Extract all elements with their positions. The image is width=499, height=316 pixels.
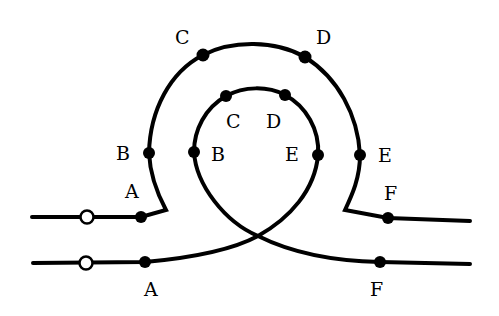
outer-label-c: C bbox=[175, 26, 190, 48]
outer-loop-track bbox=[32, 44, 470, 221]
outer-point-c-dot-icon bbox=[197, 49, 210, 62]
inner-label-b: B bbox=[211, 143, 225, 165]
outer-label-f: F bbox=[384, 182, 397, 204]
track-loop-diagram: A B C D E F A B C D E F bbox=[0, 0, 499, 316]
inner-label-a: A bbox=[143, 278, 158, 300]
outer-label-e: E bbox=[378, 144, 392, 166]
inner-point-e-dot-icon bbox=[312, 149, 324, 161]
outer-point-e-dot-icon bbox=[354, 149, 366, 161]
inner-label-d: D bbox=[266, 110, 281, 132]
inner-label-c: C bbox=[226, 110, 241, 132]
outer-point-f-dot-icon bbox=[382, 212, 394, 224]
inner-label-f: F bbox=[370, 278, 383, 300]
inner-point-f-dot-icon bbox=[374, 256, 386, 268]
inner-point-c-dot-icon bbox=[220, 90, 232, 102]
inner-point-b-dot-icon bbox=[188, 146, 200, 158]
outer-point-b-dot-icon bbox=[143, 147, 155, 159]
outer-point-d-dot-icon bbox=[299, 51, 312, 64]
inner-point-a-dot-icon bbox=[139, 256, 151, 268]
outer-label-d: D bbox=[316, 26, 331, 48]
inner-start-open-circle-icon bbox=[80, 257, 93, 270]
inner-label-e: E bbox=[285, 143, 299, 165]
inner-point-d-dot-icon bbox=[279, 89, 291, 101]
inner-loop-track bbox=[33, 88, 470, 264]
outer-label-b: B bbox=[116, 142, 130, 164]
outer-start-open-circle-icon bbox=[81, 211, 94, 224]
outer-point-a-dot-icon bbox=[135, 211, 147, 223]
outer-label-a: A bbox=[124, 180, 139, 202]
